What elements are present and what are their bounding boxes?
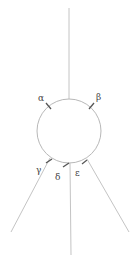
epsilon-arrow-icon [82, 160, 87, 164]
epsilon-label: ε [75, 168, 80, 178]
delta-arrow-icon [63, 163, 69, 167]
delta-label: δ [55, 172, 60, 182]
bottom-left-line [11, 158, 50, 232]
central-circle [37, 99, 101, 163]
gamma-label: γ [36, 165, 41, 175]
bottom-right-line [87, 159, 129, 232]
bottom-center-line [70, 163, 71, 255]
diagram-canvas: α β γ δ ε [0, 0, 135, 257]
beta-label: β [96, 92, 101, 102]
alpha-label: α [38, 93, 44, 103]
